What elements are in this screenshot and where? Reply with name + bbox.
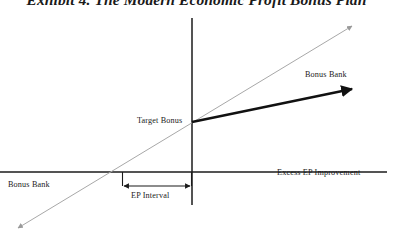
bonus-bank-payout-line	[192, 89, 352, 122]
label-x-axis-excess-ep-improvement: Excess EP Improvement	[277, 168, 360, 177]
economic-profit-bonus-diagram	[0, 0, 393, 235]
label-bonus-bank-upper: Bonus Bank	[305, 70, 347, 79]
label-target-bonus: Target Bonus	[137, 116, 182, 125]
label-bonus-bank-lower: Bonus Bank	[8, 180, 50, 189]
reference-45-degree-line	[18, 26, 352, 228]
label-ep-interval: EP Interval	[131, 191, 169, 200]
exhibit-figure: Exhibit 4. The Modern Economic Profit Bo…	[0, 0, 393, 235]
